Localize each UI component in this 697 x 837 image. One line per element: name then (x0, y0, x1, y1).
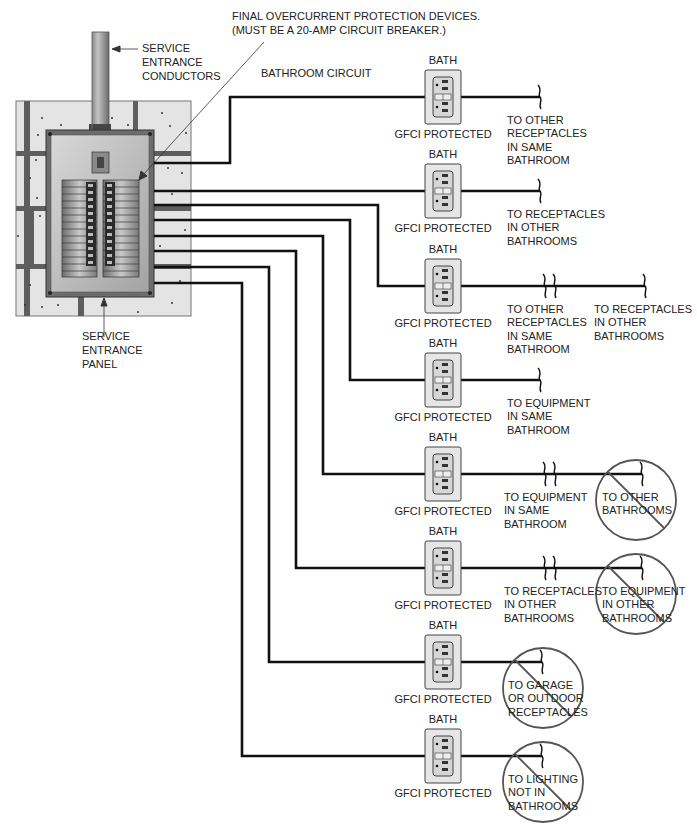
receptacle-top-label: BATH (393, 54, 493, 67)
destination-label: RECEPTACLES (507, 127, 587, 140)
wire (154, 220, 425, 380)
wire (154, 97, 425, 163)
circuit-wires (154, 97, 645, 756)
destination-label: IN SAME (507, 141, 552, 154)
label-service-entrance-conductors-1: SERVICE (142, 42, 190, 55)
destination-label: TO EQUIPMENT (504, 491, 588, 504)
service-entrance-panel (46, 130, 154, 297)
gfci-receptacle (425, 259, 461, 313)
destination-label: TO RECEPTACLES (594, 303, 692, 316)
label-service-entrance-panel-1: SERVICE (82, 330, 130, 343)
destination-label: IN SAME (507, 410, 552, 423)
prohibited-destination-label: TO LIGHTING (508, 773, 578, 786)
destination-label: BATHROOM (507, 343, 570, 356)
receptacle-bottom-label: GFCI PROTECTED (393, 693, 493, 706)
gfci-receptacle (425, 447, 461, 501)
label-service-entrance-panel-3: PANEL (82, 358, 117, 371)
wire (154, 205, 425, 286)
destination-label: IN OTHER (507, 221, 560, 234)
destination-label: IN OTHER (504, 598, 557, 611)
destination-label: IN OTHER (594, 316, 647, 329)
service-entrance-conduit (89, 32, 111, 132)
label-service-entrance-panel-2: ENTRANCE (82, 344, 143, 357)
destination-label: TO EQUIPMENT (507, 397, 591, 410)
receptacle-top-label: BATH (393, 431, 493, 444)
receptacle-bottom-label: GFCI PROTECTED (393, 128, 493, 141)
destination-label: IN SAME (504, 504, 549, 517)
gfci-receptacle (425, 635, 461, 689)
wire (154, 251, 425, 568)
destination-label: TO RECEPTACLES (507, 208, 605, 221)
receptacle-top-label: BATH (393, 243, 493, 256)
arrow-icon (112, 46, 120, 52)
prohibited-destination-label: TO OTHER (602, 491, 659, 504)
receptacle-bottom-label: GFCI PROTECTED (393, 505, 493, 518)
destination-label: IN SAME (507, 330, 552, 343)
destination-label: TO OTHER (507, 303, 564, 316)
callout-final-overcurrent-line2: (MUST BE A 20-AMP CIRCUIT BREAKER.) (232, 24, 446, 37)
destination-label: BATHROOM (507, 154, 570, 167)
destination-label: TO OTHER (507, 114, 564, 127)
destination-label: BATHROOMS (504, 612, 574, 625)
gfci-receptacle (425, 164, 461, 218)
receptacle-top-label: BATH (393, 148, 493, 161)
prohibited-destination-label: IN OTHER (602, 598, 655, 611)
label-service-entrance-conductors-2: ENTRANCE (142, 56, 203, 69)
receptacles (425, 70, 461, 783)
destination-label: BATHROOMS (594, 330, 664, 343)
callout-final-overcurrent-line1: FINAL OVERCURRENT PROTECTION DEVICES. (232, 10, 480, 23)
prohibited-destination-label: BATHROOMS (602, 612, 672, 625)
prohibited-destination-label: BATHROOMS (602, 504, 672, 517)
prohibited-destination-label: TO EQUIPMENT (602, 585, 686, 598)
destination-label: BATHROOM (504, 518, 567, 531)
receptacle-bottom-label: GFCI PROTECTED (393, 317, 493, 330)
receptacle-bottom-label: GFCI PROTECTED (393, 599, 493, 612)
receptacle-bottom-label: GFCI PROTECTED (393, 411, 493, 424)
prohibited-destination-label: TO GARAGE (508, 679, 573, 692)
destination-label: RECEPTACLES (507, 316, 587, 329)
receptacle-top-label: BATH (393, 713, 493, 726)
gfci-receptacle (425, 729, 461, 783)
receptacle-top-label: BATH (393, 619, 493, 632)
prohibited-destination-label: OR OUTDOOR (508, 692, 584, 705)
receptacle-top-label: BATH (393, 525, 493, 538)
receptacle-top-label: BATH (393, 337, 493, 350)
wire (154, 236, 425, 474)
prohibited-destination-label: BATHROOMS (508, 800, 578, 813)
gfci-receptacle (425, 353, 461, 407)
receptacle-bottom-label: GFCI PROTECTED (393, 222, 493, 235)
prohibited-destination-label: RECEPTACLES (508, 706, 588, 719)
wire (154, 267, 425, 662)
bathroom-circuit-diagram (0, 0, 697, 837)
destination-label: BATHROOMS (507, 235, 577, 248)
receptacle-bottom-label: GFCI PROTECTED (393, 787, 493, 800)
label-bathroom-circuit: BATHROOM CIRCUIT (261, 67, 371, 80)
gfci-receptacle (425, 70, 461, 124)
destination-label: BATHROOM (507, 424, 570, 437)
prohibited-destination-label: NOT IN (508, 786, 545, 799)
destination-label: TO RECEPTACLES (504, 585, 602, 598)
wire (154, 283, 425, 756)
label-service-entrance-conductors-3: CONDUCTORS (142, 70, 221, 83)
gfci-receptacle (425, 541, 461, 595)
